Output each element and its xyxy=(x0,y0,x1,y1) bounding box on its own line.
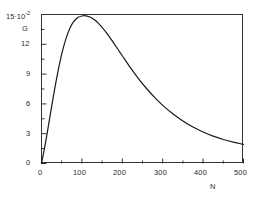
y-tick-label-3: 3 xyxy=(26,129,30,138)
x-axis-title: N xyxy=(210,182,215,191)
x-tick-label-200: 200 xyxy=(113,168,126,177)
y-axis-unit-label: 15·10-2 xyxy=(6,10,30,21)
x-tick-label-400: 400 xyxy=(194,168,207,177)
chart-figure: 15·10-2 G 12 9 6 3 0 0 100 200 300 400 5… xyxy=(0,0,260,201)
x-tick-label-0: 0 xyxy=(38,168,42,177)
y-tick-label-12: 12 xyxy=(21,39,30,48)
axis-frame xyxy=(42,15,243,163)
x-tick-label-100: 100 xyxy=(73,168,86,177)
x-tick-label-300: 300 xyxy=(154,168,167,177)
y-axis-title: G xyxy=(22,24,28,33)
y-axis-unit-mantissa: 15·10 xyxy=(6,12,25,21)
y-tick-label-0: 0 xyxy=(26,158,30,167)
y-tick-label-6: 6 xyxy=(26,99,30,108)
x-tick-label-500: 500 xyxy=(234,168,247,177)
y-axis-unit-exponent: -2 xyxy=(25,10,30,16)
y-tick-label-9: 9 xyxy=(26,69,30,78)
